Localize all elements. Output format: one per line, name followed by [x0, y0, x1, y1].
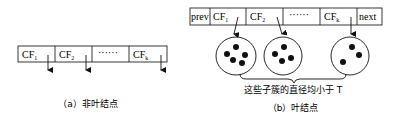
leaf-cell-k: CFk	[324, 11, 339, 23]
cluster-1	[216, 37, 256, 75]
leaf-cell-2: CF2	[250, 11, 265, 23]
cluster-3	[331, 37, 369, 75]
nonleaf-cell-ellipsis: ······	[98, 47, 118, 58]
leaf-cell-1: CF1	[213, 11, 228, 23]
arrow-icon	[277, 17, 282, 34]
leaf-cell-ellipsis: ······	[289, 9, 309, 20]
curly-brace-icon	[240, 74, 346, 83]
nonleaf-node: CF1 CF2 ······ CFk （a）非叶结点	[18, 46, 167, 109]
cluster-2	[264, 37, 302, 75]
next-pointer: next	[359, 11, 376, 22]
nonleaf-caption: （a）非叶结点	[58, 98, 118, 109]
leaf-caption: （b）叶结点	[268, 102, 319, 113]
nonleaf-cell-k: CFk	[133, 49, 148, 61]
nonleaf-cell-1: CF1	[22, 49, 37, 61]
leaf-node: prev CF1 CF2 ······ CFk next	[190, 8, 382, 113]
cf-tree-diagram: CF1 CF2 ······ CFk （a）非叶结点 prev CF1 CF2 …	[0, 0, 393, 123]
nonleaf-cell-2: CF2	[59, 49, 74, 61]
brace-label: 这些子簇的直径均小于 T	[244, 84, 343, 95]
prev-pointer: prev	[191, 11, 209, 22]
arrow-icon	[234, 17, 238, 34]
